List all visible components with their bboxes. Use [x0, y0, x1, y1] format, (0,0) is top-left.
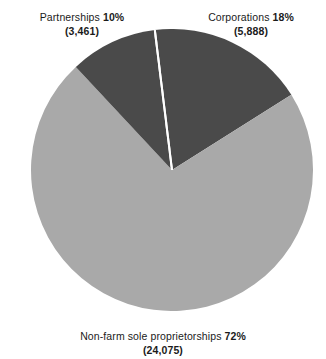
pie-slices	[31, 29, 313, 311]
pie-label-non-farm-sole-proprietorships: Non-farm sole proprietorships 72% (24,07…	[33, 330, 293, 357]
pie-label-corporations: Corporations 18% (5,888)	[176, 11, 326, 38]
pie-label-partnerships-percent: 10%	[103, 11, 124, 23]
pie-chart-figure: Partnerships 10% (3,461) Corporations 18…	[0, 0, 326, 359]
pie-label-partnerships: Partnerships 10% (3,461)	[0, 11, 164, 38]
pie-label-partnerships-count: (3,461)	[0, 25, 164, 39]
pie-label-corporations-count: (5,888)	[176, 25, 326, 39]
pie-svg	[31, 29, 313, 311]
pie-label-non-farm-count: (24,075)	[33, 344, 293, 358]
pie-label-partnerships-name: Partnerships	[40, 11, 103, 23]
pie-label-non-farm-name: Non-farm sole proprietorships	[80, 330, 224, 342]
pie-label-corporations-percent: 18%	[273, 11, 294, 23]
pie-label-non-farm-percent: 72%	[225, 330, 246, 342]
pie-chart-graphic	[31, 29, 313, 311]
pie-label-corporations-name: Corporations	[208, 11, 272, 23]
